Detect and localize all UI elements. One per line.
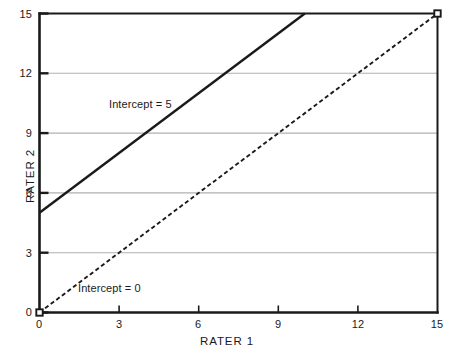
y-tick-label-9: 9 bbox=[10, 128, 32, 139]
x-tick-label-15: 15 bbox=[431, 319, 443, 330]
endpoint-marker bbox=[36, 309, 42, 315]
series-line-0 bbox=[40, 14, 305, 213]
chart-figure: 15 12 9 6 3 0 0 3 6 9 12 15 RATER 1 RATE… bbox=[0, 0, 454, 353]
x-tick-label-3: 3 bbox=[116, 319, 122, 330]
y-tick-label-0: 0 bbox=[10, 307, 32, 318]
y-tick-label-3: 3 bbox=[10, 248, 32, 259]
plot-canvas bbox=[0, 0, 454, 353]
y-axis-title: RATER 2 bbox=[25, 149, 37, 203]
x-tick-label-12: 12 bbox=[352, 319, 364, 330]
annotation-intercept-5: Intercept = 5 bbox=[109, 99, 172, 110]
endpoint-marker bbox=[434, 10, 440, 16]
y-tick-label-12: 12 bbox=[10, 68, 32, 79]
x-tick-label-6: 6 bbox=[195, 319, 201, 330]
x-axis-title: RATER 1 bbox=[200, 336, 254, 348]
annotation-intercept-0: Intercept = 0 bbox=[78, 283, 141, 294]
x-tick-label-0: 0 bbox=[36, 319, 42, 330]
data-series-group bbox=[40, 14, 438, 313]
y-tick-marks bbox=[40, 14, 49, 313]
series-line-1 bbox=[40, 14, 438, 313]
x-tick-label-9: 9 bbox=[275, 319, 281, 330]
y-tick-label-15: 15 bbox=[10, 9, 32, 20]
